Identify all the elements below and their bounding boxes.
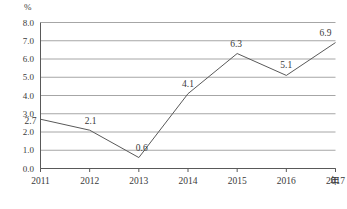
- x-tick-label: 2014: [163, 176, 213, 186]
- x-tick-label: 2012: [65, 176, 115, 186]
- y-tick-label: 4.0: [4, 92, 34, 101]
- y-tick-label: 1.0: [4, 146, 34, 155]
- x-axis-unit-label: 年: [330, 176, 340, 186]
- gridlines-group: [41, 23, 336, 169]
- x-tick-label: 2015: [212, 176, 262, 186]
- y-tick-label: 8.0: [4, 19, 34, 28]
- y-tick-label: 7.0: [4, 37, 34, 46]
- x-tick-label: 2011: [16, 176, 66, 186]
- data-point-label: 5.1: [280, 60, 292, 70]
- y-tick-label: 0.0: [4, 165, 34, 174]
- y-tick-label: 5.0: [4, 73, 34, 82]
- data-point-label: 4.1: [182, 79, 194, 89]
- data-point-label: 6.3: [230, 39, 242, 49]
- data-point-label: 2.1: [85, 116, 97, 126]
- y-tick-label: 6.0: [4, 55, 34, 64]
- x-tick-label: 2013: [114, 176, 164, 186]
- x-tick-label: 2016: [261, 176, 311, 186]
- data-point-label: 6.9: [320, 28, 332, 38]
- data-point-label: 0.6: [136, 143, 148, 153]
- x-tick-marks-group: [41, 169, 336, 173]
- x-tick-label: 2017: [311, 176, 347, 186]
- y-tick-label: 2.0: [4, 128, 34, 137]
- line-chart: % 8.07.06.05.04.03.02.01.00.0 2011201220…: [0, 0, 347, 209]
- data-point-label: 2.7: [25, 116, 37, 126]
